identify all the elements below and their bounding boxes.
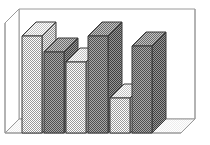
- chart-figure: [0, 0, 210, 145]
- chart-canvas: [0, 0, 210, 145]
- bar-5-front-face: [110, 98, 130, 133]
- bars-group: [22, 22, 166, 133]
- bar-2-front-face: [44, 52, 64, 133]
- bar-6: [132, 32, 166, 133]
- bar-6-front-face: [132, 46, 152, 133]
- bar-1-front-face: [22, 36, 42, 133]
- bar-3-front-face: [66, 62, 86, 133]
- bar-6-side-face: [152, 32, 166, 133]
- left-wall: [5, 9, 19, 133]
- bar-4-front-face: [88, 36, 108, 133]
